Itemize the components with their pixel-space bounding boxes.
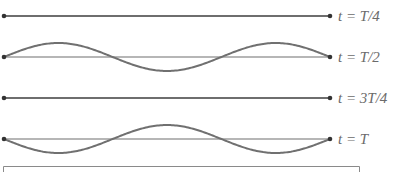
left-node-dot [2,14,7,19]
left-node-dot [2,96,7,101]
left-node-dot [2,137,7,142]
left-node-dot [2,55,7,60]
bottom-bracket [4,167,360,173]
label-t-three-quarter: t = 3T/4 [338,91,387,106]
label-t-half: t = T/2 [338,50,380,65]
right-node-dot [328,137,333,142]
standing-wave-diagram [0,0,394,172]
label-t-quarter: t = T/4 [338,9,380,24]
label-t-full: t = T [338,132,368,147]
right-node-dot [328,14,333,19]
right-node-dot [328,55,333,60]
right-node-dot [328,96,333,101]
